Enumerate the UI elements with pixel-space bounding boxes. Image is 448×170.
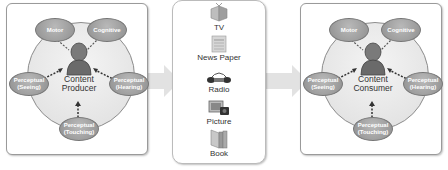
consumer-node-touching: Perceptual (Touching) (353, 117, 393, 141)
newspaper-icon (210, 35, 228, 53)
media-item-newspaper: News Paper (173, 35, 265, 62)
radio-icon (206, 69, 232, 85)
producer-node-cognitive: Cognitive (87, 18, 127, 42)
consumer-node-seeing: Perceptual (Seeing) (303, 72, 343, 96)
consumer-label: Content Consumer (343, 75, 403, 93)
consumer-person-icon (360, 42, 386, 76)
consumer-node-hearing: Perceptual (Hearing) (403, 72, 443, 96)
producer-person-icon (66, 42, 92, 76)
consumer-panel: Content Consumer Motor Cognitive Percept… (300, 3, 442, 155)
producer-node-motor: Motor (35, 18, 75, 42)
consumer-node-motor: Motor (329, 18, 369, 42)
picture-icon (207, 99, 231, 117)
consumer-node-cognitive: Cognitive (381, 18, 421, 42)
producer-node-hearing: Perceptual (Hearing) (109, 72, 149, 96)
producer-node-touching: Perceptual (Touching) (59, 117, 99, 141)
producer-panel: Content Producer Motor Cognitive Percept… (6, 3, 148, 155)
media-panel: TV News Paper Radio Picture (172, 0, 266, 164)
media-item-tv: TV (173, 3, 265, 32)
media-item-picture: Picture (173, 99, 265, 126)
book-icon (208, 129, 230, 149)
producer-label: Content Producer (49, 75, 109, 93)
media-item-radio: Radio (173, 69, 265, 94)
media-item-book: Book (173, 129, 265, 158)
producer-node-seeing: Perceptual (Seeing) (9, 72, 49, 96)
tv-icon (208, 3, 230, 23)
